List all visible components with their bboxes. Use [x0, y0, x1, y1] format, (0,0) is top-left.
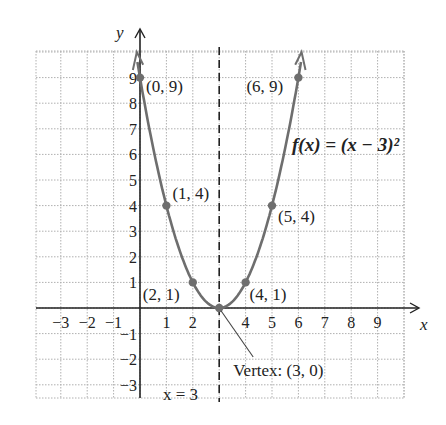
- point-label: (2, 1): [143, 285, 180, 304]
- x-tick-label: 9: [374, 314, 382, 331]
- point-label: (4, 1): [250, 285, 287, 304]
- function-label: f(x) = (x − 3)²: [292, 134, 400, 156]
- axes: [36, 29, 419, 398]
- y-tick-label: 7: [129, 121, 137, 138]
- data-point: [189, 278, 197, 286]
- vertex-label: Vertex: (3, 0): [233, 361, 323, 380]
- x-tick-label: 7: [321, 314, 329, 331]
- y-tick-label: 1: [129, 274, 137, 291]
- y-axis-label: y: [114, 23, 124, 42]
- x-tick-label: 6: [294, 314, 302, 331]
- point-label: (5, 4): [278, 207, 315, 226]
- point-label: (6, 9): [246, 77, 283, 96]
- x-axis-label: x: [419, 315, 428, 334]
- data-point: [162, 201, 170, 209]
- point-label: (1, 4): [172, 184, 209, 203]
- x-tick-label: 5: [268, 314, 276, 331]
- data-point: [268, 201, 276, 209]
- y-tick-label: 2: [129, 249, 137, 266]
- y-tick-label: 3: [129, 223, 137, 240]
- point-label: (0, 9): [146, 77, 183, 96]
- y-tick-label: 8: [129, 95, 137, 112]
- symmetry-label: x = 3: [163, 385, 198, 404]
- y-tick-label: 9: [129, 70, 137, 87]
- y-tick-label: −1: [120, 326, 137, 343]
- x-tick-label: 2: [189, 314, 197, 331]
- data-point: [241, 278, 249, 286]
- data-point: [215, 304, 223, 312]
- x-tick-label: 8: [347, 314, 355, 331]
- y-tick-label: 4: [129, 198, 137, 215]
- data-point: [294, 73, 302, 81]
- data-point: [136, 73, 144, 81]
- x-tick-label: −2: [79, 314, 96, 331]
- parabola-chart: −3−2−112456789−3−2−1123456789 (0, 9)(1, …: [0, 0, 446, 425]
- y-tick-label: −3: [120, 377, 137, 394]
- x-tick-label: −3: [52, 314, 69, 331]
- x-tick-label: 4: [242, 314, 250, 331]
- y-tick-label: 6: [129, 146, 137, 163]
- y-tick-label: 5: [129, 172, 137, 189]
- x-tick-label: 1: [162, 314, 170, 331]
- y-tick-label: −2: [120, 351, 137, 368]
